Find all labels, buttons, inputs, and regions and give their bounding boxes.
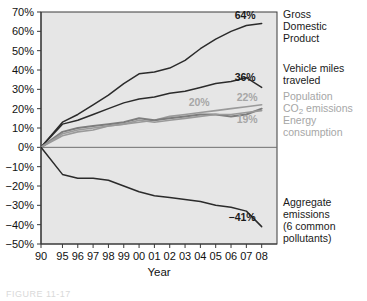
y-tick-label: −50%: [6, 238, 35, 250]
x-tick-label: 07: [240, 250, 252, 262]
legend-label: Product: [283, 32, 319, 44]
y-tick-label: 60%: [12, 25, 34, 37]
x-tick-label: 90: [35, 250, 47, 262]
y-tick-label: 20%: [12, 103, 34, 115]
y-tick-label: 0%: [18, 141, 34, 153]
legend-label: consumption: [283, 126, 343, 138]
figure-container: 70%60%50%40%30%20%10%0%−10%−20%−30%−40%−…: [0, 0, 367, 301]
x-tick-label: 00: [133, 250, 145, 262]
x-tick-label: 99: [118, 250, 130, 262]
x-tick-label: 97: [87, 250, 99, 262]
x-tick-label: 98: [102, 250, 114, 262]
legend-label: Gross: [283, 8, 311, 20]
series-value-label: 22%: [237, 91, 259, 103]
y-tick-label: 10%: [12, 122, 34, 134]
y-tick-label: 30%: [12, 83, 34, 95]
x-axis-title-text: Year: [147, 266, 170, 278]
figure-caption: FIGURE 11-17: [6, 289, 71, 299]
legend-label: Vehicle miles: [283, 62, 344, 74]
legend-label: (6 common: [283, 220, 336, 232]
y-tick-label: −30%: [6, 199, 35, 211]
y-tick-label: −40%: [6, 219, 35, 231]
y-tick-label: 40%: [12, 64, 34, 76]
series-value-label: 64%: [235, 9, 257, 21]
line-chart: 70%60%50%40%30%20%10%0%−10%−20%−30%−40%−…: [0, 0, 367, 301]
y-tick-label: −10%: [6, 161, 35, 173]
y-tick-label: −20%: [6, 180, 35, 192]
x-tick-label: 01: [148, 250, 160, 262]
x-tick-label: 04: [194, 250, 206, 262]
x-tick-label: 02: [164, 250, 176, 262]
legend-label: Energy: [283, 114, 317, 126]
legend-label: traveled: [283, 74, 321, 86]
x-tick-label: 96: [72, 250, 84, 262]
series-value-label: −41%: [229, 211, 257, 223]
x-tick-label: 95: [56, 250, 68, 262]
x-tick-label: 08: [256, 250, 268, 262]
legend-label: Population: [283, 90, 333, 102]
x-tick-label: 05: [210, 250, 222, 262]
y-tick-label: 50%: [12, 45, 34, 57]
x-tick-label: 03: [179, 250, 191, 262]
x-axis-title: Year: [147, 266, 170, 278]
legend-label: pollutants): [283, 232, 331, 244]
series-value-label: 19%: [237, 113, 259, 125]
series-value-label: 20%: [189, 96, 211, 108]
series-value-label: 36%: [235, 71, 257, 83]
y-tick-label: 70%: [12, 6, 34, 18]
legend-label: emissions: [283, 208, 330, 220]
x-tick-label: 06: [225, 250, 237, 262]
legend-label: Aggregate: [283, 196, 332, 208]
legend-label: Domestic: [283, 20, 327, 32]
